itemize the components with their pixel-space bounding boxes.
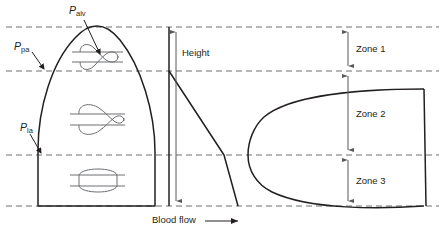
label-p-alveolar-symbol: P bbox=[69, 4, 76, 16]
pressure-gradient-line bbox=[169, 71, 238, 206]
label-blood-flow: Blood flow bbox=[152, 215, 196, 225]
label-p-left-atrium: Pla bbox=[20, 122, 33, 133]
capillary-vessel-upper bbox=[80, 45, 118, 63]
leader-line-palv bbox=[84, 20, 100, 54]
label-zone-3: Zone 3 bbox=[356, 176, 386, 186]
label-p-left-atrium-subscript: la bbox=[27, 126, 33, 135]
blood-flow-curve bbox=[248, 89, 424, 208]
capillary-zone2 bbox=[70, 105, 125, 135]
capillary-vessel-lower bbox=[79, 186, 117, 192]
label-p-left-atrium-symbol: P bbox=[20, 121, 27, 133]
label-p-alveolar-subscript: alv bbox=[76, 9, 86, 18]
blood-flow-curve-closing-line bbox=[424, 89, 426, 206]
pulmonary-zones-diagram: Palv Ppa Pla Height Blood flow Zone 1 Zo… bbox=[0, 0, 445, 234]
capillary-vessel-lower bbox=[80, 52, 118, 70]
label-zone-2: Zone 2 bbox=[356, 109, 386, 119]
leader-line-pla bbox=[30, 134, 41, 153]
label-p-pulmonary-artery-subscript: pa bbox=[21, 45, 29, 54]
label-p-pulmonary-artery-symbol: P bbox=[14, 40, 21, 52]
label-height: Height bbox=[182, 48, 209, 58]
leader-line-ppa bbox=[32, 52, 44, 69]
label-p-pulmonary-artery: Ppa bbox=[14, 41, 29, 52]
capillary-zone3 bbox=[70, 169, 125, 192]
lung-outline bbox=[38, 26, 155, 206]
label-p-alveolar: Palv bbox=[69, 5, 86, 16]
capillary-vessel-upper bbox=[79, 169, 117, 175]
label-zone-1: Zone 1 bbox=[356, 44, 386, 54]
